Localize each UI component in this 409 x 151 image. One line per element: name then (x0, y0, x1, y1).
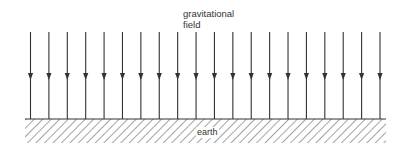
earth-label: earth (196, 127, 219, 138)
field-lines (28, 32, 383, 119)
down-arrow-icon (267, 32, 272, 119)
down-arrow-icon (46, 32, 51, 119)
down-arrow-icon (65, 32, 70, 119)
down-arrow-icon (359, 32, 364, 119)
down-arrow-icon (285, 32, 290, 119)
field-label-line1: gravitational (183, 8, 234, 19)
down-arrow-icon (157, 32, 162, 119)
down-arrow-icon (249, 32, 254, 119)
down-arrow-icon (230, 32, 235, 119)
down-arrow-icon (101, 32, 106, 119)
down-arrow-icon (377, 32, 382, 119)
down-arrow-icon (28, 32, 33, 119)
down-arrow-icon (120, 32, 125, 119)
field-label: gravitational field (183, 8, 234, 30)
down-arrow-icon (304, 32, 309, 119)
down-arrow-icon (175, 32, 180, 119)
down-arrow-icon (193, 32, 198, 119)
down-arrow-icon (83, 32, 88, 119)
down-arrow-icon (138, 32, 143, 119)
down-arrow-icon (212, 32, 217, 119)
down-arrow-icon (322, 32, 327, 119)
field-label-line2: field (183, 19, 234, 30)
down-arrow-icon (341, 32, 346, 119)
